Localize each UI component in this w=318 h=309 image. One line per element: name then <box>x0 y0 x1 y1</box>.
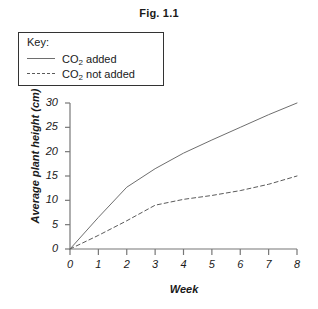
figure-container: Fig. 1.1 Key: CO2 added CO2 not added Av… <box>0 0 318 309</box>
x-axis-tick-label: 0 <box>62 258 78 270</box>
y-axis-tick-label: 5 <box>34 218 58 230</box>
x-axis-tick-label: 1 <box>90 258 106 270</box>
y-axis-tick-label: 0 <box>34 242 58 254</box>
y-axis-tick-label: 30 <box>34 96 58 108</box>
y-axis-tick-label: 25 <box>34 120 58 132</box>
x-axis-tick-label: 8 <box>289 258 305 270</box>
y-axis-tick-label: 20 <box>34 145 58 157</box>
x-axis-tick-label: 4 <box>176 258 192 270</box>
x-axis-tick-label: 6 <box>232 258 248 270</box>
x-axis-label: Week <box>70 283 298 295</box>
x-axis-tick-label: 5 <box>204 258 220 270</box>
x-axis-tick-label: 2 <box>119 258 135 270</box>
x-axis-tick-label: 7 <box>261 258 277 270</box>
y-axis-tick-label: 15 <box>34 169 58 181</box>
x-axis-tick-label: 3 <box>147 258 163 270</box>
series-line-dashed <box>70 176 297 249</box>
series-line-solid <box>70 103 297 249</box>
y-axis-tick-label: 10 <box>34 193 58 205</box>
plot-area: Average plant height (cm) Week 051015202… <box>0 0 318 309</box>
